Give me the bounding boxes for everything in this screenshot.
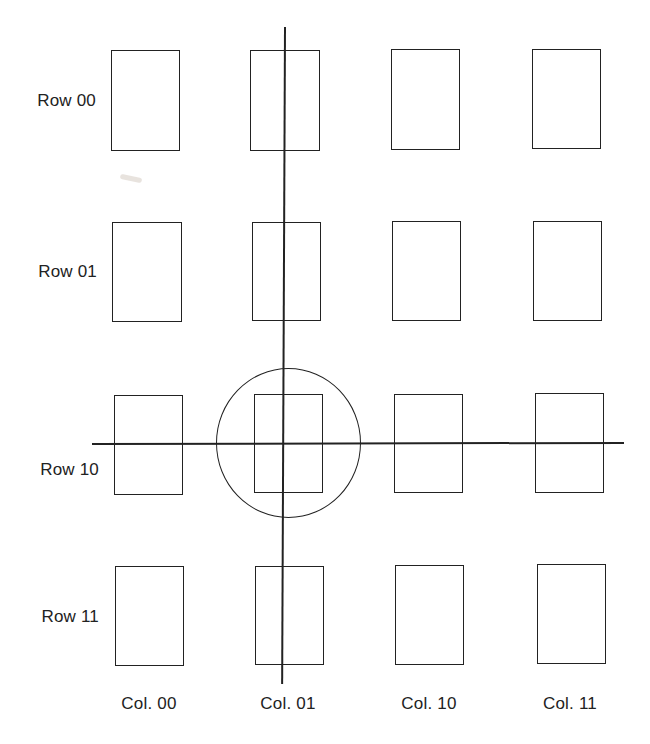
cell-row01-col01	[252, 222, 321, 321]
row-label-00: Row 00	[16, 91, 96, 111]
col-label-00: Col. 00	[99, 694, 199, 714]
row-label-01: Row 01	[17, 262, 97, 282]
cell-row11-col00	[115, 566, 184, 666]
cell-row00-col00	[111, 50, 180, 151]
row-label-10: Row 10	[19, 460, 99, 480]
cell-row10-col00	[114, 395, 183, 495]
cell-row01-col00	[112, 222, 182, 322]
cell-row11-col01	[255, 566, 324, 665]
memory-cell-selection-diagram: Row 00 Row 01 Row 10 Row 11 Col. 00 Col.…	[0, 0, 650, 744]
cell-row01-col11	[533, 221, 602, 321]
selected-cell-circle-marker	[216, 368, 361, 518]
paper-smudge	[120, 174, 143, 183]
col-label-01: Col. 01	[238, 694, 338, 714]
col-label-11: Col. 11	[520, 694, 620, 714]
cell-row01-col10	[392, 221, 461, 321]
cell-row11-col11	[537, 564, 606, 664]
row-label-11: Row 11	[19, 607, 99, 627]
cell-row11-col10	[395, 565, 464, 665]
col-label-10: Col. 10	[379, 694, 479, 714]
cell-row00-col11	[532, 49, 601, 149]
cell-row00-col10	[391, 49, 460, 150]
